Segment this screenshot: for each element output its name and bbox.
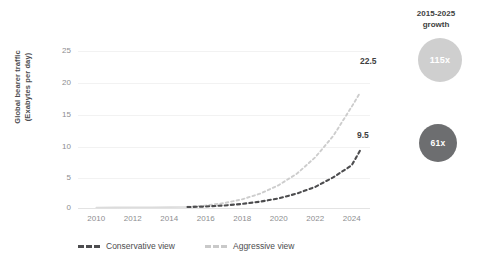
x-tick-label-2016: 2016 [197,215,215,223]
x-tick-label-2012: 2012 [124,215,142,223]
x-tick-label-2010: 2010 [87,215,105,223]
x-tick-label-2014: 2014 [160,215,178,223]
x-tick-label-2018: 2018 [233,215,251,223]
y-tick-label-25: 25 [62,47,71,55]
growth-callout-title: 2015-2025 growth [393,8,479,30]
series-plot [78,45,370,208]
legend-label-aggressive: Aggressive view [233,242,294,251]
dashed-line-icon [205,245,227,248]
plot-area: 25 20 15 10 5 0 2010 2012 2014 2016 2018… [78,45,370,208]
y-axis-title: Global bearer traffic (Exabytes per day) [13,17,39,157]
y-tick-label-15: 15 [62,111,71,119]
dashed-line-icon [78,245,100,248]
chart-container: Global bearer traffic (Exabytes per day)… [0,0,479,269]
aggressive-growth-value: 115x [430,55,450,65]
x-tick-label-2022: 2022 [306,215,324,223]
y-tick-label-20: 20 [62,79,71,87]
legend-item-aggressive[interactable]: Aggressive view [205,242,294,251]
series-conservative-line [188,151,361,207]
conservative-end-value: 9.5 [357,131,369,140]
conservative-growth-value: 61x [431,138,446,148]
aggressive-growth-bubble: 115x [418,38,462,82]
x-tick-label-2024: 2024 [343,215,361,223]
growth-title-text: 2015-2025 growth [393,8,479,30]
y-tick-label-10: 10 [62,143,71,151]
y-tick-label-0: 0 [67,204,71,212]
series-aggressive-line [188,93,361,207]
legend-label-conservative: Conservative view [106,242,175,251]
legend-item-conservative[interactable]: Conservative view [78,242,175,251]
aggressive-end-value: 22.5 [360,57,377,66]
y-tick-label-5: 5 [67,174,71,182]
x-tick-label-2020: 2020 [270,215,288,223]
conservative-growth-bubble: 61x [419,124,457,162]
chart-legend: Conservative view Aggressive view [78,242,294,251]
